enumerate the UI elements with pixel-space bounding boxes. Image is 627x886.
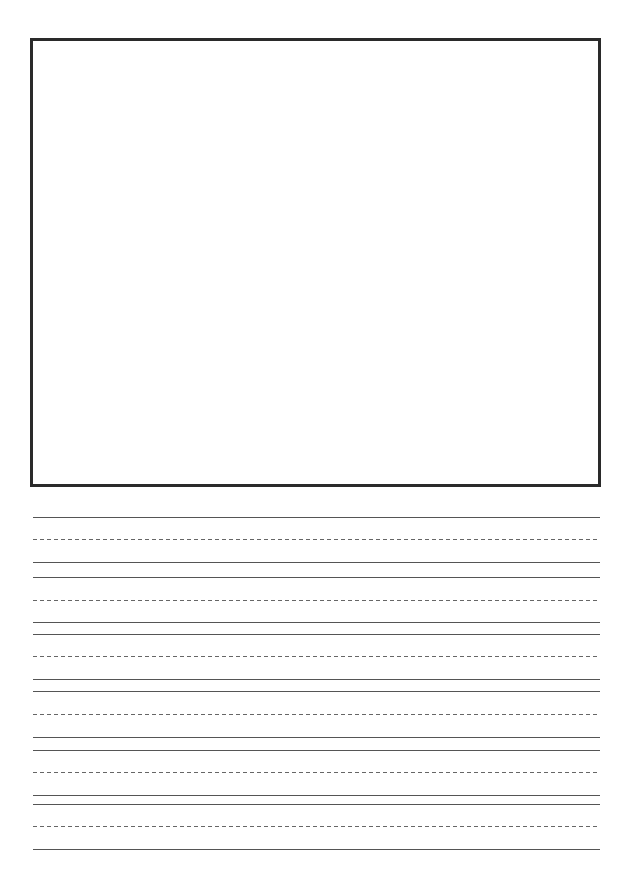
- writing-line-midline-5: [33, 772, 600, 773]
- writing-line-midline-1: [33, 539, 600, 540]
- writing-line-top-5: [33, 750, 600, 751]
- writing-line-top-6: [33, 804, 600, 805]
- writing-line-baseline-4: [33, 737, 600, 738]
- writing-line-top-1: [33, 517, 600, 518]
- writing-line-top-2: [33, 577, 600, 578]
- writing-line-midline-3: [33, 656, 600, 657]
- writing-line-baseline-1: [33, 562, 600, 563]
- writing-line-midline-4: [33, 714, 600, 715]
- drawing-box: [30, 38, 601, 487]
- writing-line-baseline-6: [33, 849, 600, 850]
- writing-line-midline-2: [33, 600, 600, 601]
- writing-line-top-4: [33, 691, 600, 692]
- writing-line-baseline-2: [33, 622, 600, 623]
- writing-line-baseline-5: [33, 795, 600, 796]
- writing-line-baseline-3: [33, 679, 600, 680]
- writing-line-midline-6: [33, 826, 600, 827]
- writing-line-top-3: [33, 634, 600, 635]
